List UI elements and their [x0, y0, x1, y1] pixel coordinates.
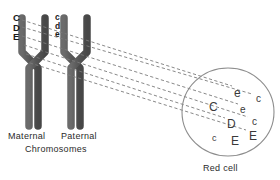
antigen-label: D [227, 119, 236, 129]
projection-line [30, 63, 246, 130]
antigen-label: c [252, 117, 257, 127]
antigen-label: e [240, 105, 246, 115]
antigen-label: C [209, 102, 218, 112]
antigen-label: E [231, 136, 239, 146]
antigen-label: c [256, 94, 261, 104]
caption-chromosomes: Chromosomes [25, 144, 87, 154]
paternal-gene-labels: c d e [55, 13, 60, 39]
projection-line [22, 36, 238, 104]
red-cell-outline [182, 68, 274, 156]
caption-paternal: Paternal [61, 131, 97, 141]
antigen-label: E [249, 131, 257, 141]
diagram-canvas: C D E c d e ecCecDcEE Maternal Paternal … [0, 0, 280, 180]
maternal-gene-labels: C D E [13, 13, 20, 42]
paternal-gene-2: e [55, 30, 60, 39]
antigen-label: c [212, 133, 217, 143]
caption-maternal: Maternal [8, 131, 45, 141]
maternal-gene-2: E [13, 32, 19, 42]
caption-red-cell: Red cell [203, 163, 238, 173]
antigen-label: e [234, 88, 241, 98]
maternal-chromosome [22, 18, 45, 126]
projection-line [26, 54, 225, 118]
